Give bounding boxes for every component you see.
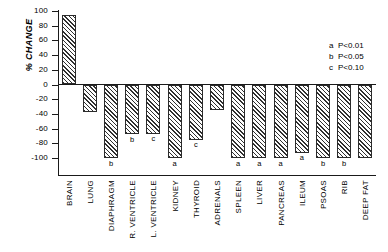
y-tick-label: 0 (0, 81, 48, 89)
y-axis-line (58, 10, 59, 175)
significance-marker: b (103, 160, 119, 168)
x-axis-category-label: DEEP FAT (361, 180, 370, 220)
y-tick (52, 129, 59, 130)
significance-marker: a (167, 160, 183, 168)
legend-row: bP<0.05 (329, 51, 364, 62)
y-tick (52, 85, 59, 86)
bar (125, 85, 139, 135)
y-tick (52, 158, 59, 159)
x-axis-category-label: PANCREAS (276, 180, 285, 226)
y-tick (52, 11, 59, 12)
legend-text: P<0.01 (338, 41, 364, 50)
x-axis-line (58, 175, 376, 176)
bar (252, 85, 266, 159)
bar (168, 85, 182, 159)
bar (337, 85, 351, 159)
bar (104, 85, 118, 159)
y-tick (52, 143, 59, 144)
significance-marker: a (294, 154, 310, 162)
x-axis-category-label: DIAPHRAGM (107, 180, 116, 231)
legend-row: aP<0.01 (329, 40, 364, 51)
bar-chart-figure: % CHANGE 100806040200-20-40-60-80-100 bb… (0, 0, 388, 252)
y-tick-label: -60 (0, 125, 48, 133)
bar (210, 85, 224, 111)
significance-legend: aP<0.01bP<0.05cP<0.10 (329, 40, 364, 73)
x-axis-category-label: KIDNEY (170, 180, 179, 212)
x-axis-category-label: ILEUM (297, 180, 306, 206)
y-tick (52, 26, 59, 27)
y-tick-label: -80 (0, 139, 48, 147)
y-tick-label: 80 (0, 22, 48, 30)
bar (231, 85, 245, 159)
y-tick (52, 99, 59, 100)
y-tick-label: -100 (0, 154, 48, 162)
x-axis-category-label: LUNG (85, 180, 94, 203)
y-tick (52, 40, 59, 41)
y-tick-label: 40 (0, 51, 48, 59)
bar (274, 85, 288, 159)
legend-key: a (329, 40, 338, 51)
bar (358, 85, 372, 159)
y-tick-label: -20 (0, 95, 48, 103)
bar (83, 85, 97, 113)
legend-key: b (329, 51, 338, 62)
significance-marker: a (230, 160, 246, 168)
x-axis-category-label: SPLEEN (234, 180, 243, 213)
y-tick-label: 60 (0, 36, 48, 44)
y-tick-label: 20 (0, 66, 48, 74)
y-tick (52, 55, 59, 56)
legend-key: c (329, 62, 338, 73)
significance-marker: b (336, 160, 352, 168)
y-tick-label: 100 (0, 7, 48, 15)
x-axis-category-label: L. VENTRICLE (149, 180, 158, 237)
significance-marker: a (251, 160, 267, 168)
x-axis-category-label: RIB (340, 180, 349, 194)
legend-row: cP<0.10 (329, 62, 364, 73)
y-tick (52, 70, 59, 71)
y-tick (52, 114, 59, 115)
bar (146, 85, 160, 134)
legend-text: P<0.05 (338, 52, 364, 61)
bar (316, 85, 330, 159)
legend-text: P<0.10 (338, 63, 364, 72)
x-axis-category-label: R. VENTRICLE (128, 180, 137, 239)
significance-marker: b (315, 160, 331, 168)
significance-marker: a (273, 160, 289, 168)
x-axis-category-label: BRAIN (64, 180, 73, 206)
x-axis-category-label: PSOAS (319, 180, 328, 209)
significance-marker: c (188, 141, 204, 149)
x-axis-category-label: ADRENALS (213, 180, 222, 226)
y-tick-label: -40 (0, 110, 48, 118)
significance-marker: b (124, 136, 140, 144)
x-axis-category-label: LIVER (255, 180, 264, 205)
bar (62, 15, 76, 85)
x-axis-category-label: THYROID (191, 180, 200, 218)
bar (189, 85, 203, 140)
significance-marker: c (145, 135, 161, 143)
bar (295, 85, 309, 153)
